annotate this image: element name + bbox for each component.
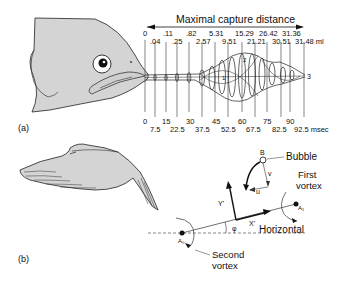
volume-second-row: .04 .25 2.57 9.51 21.21 30.51 31.48 ml [150, 37, 324, 46]
svg-text:30.51: 30.51 [272, 37, 291, 46]
svg-text:30: 30 [186, 117, 194, 126]
svg-text:.82: .82 [186, 29, 196, 38]
svg-text:22.5: 22.5 [170, 125, 185, 134]
bubble-label: Bubble [286, 151, 318, 162]
first-vortex-label-line2: vortex [296, 180, 322, 191]
first-vortex [281, 192, 298, 223]
marker-2: 2 [243, 57, 247, 63]
velocity-v-label: v [268, 170, 272, 177]
fish-head-illustration [30, 18, 148, 112]
svg-text:82.5: 82.5 [272, 125, 287, 134]
bubble-point-label: B [260, 149, 265, 156]
svg-text:45: 45 [212, 117, 220, 126]
second-vortex-label-line1: Second [212, 249, 244, 260]
time-bottom-row: 7.5 22.5 37.5 52.5 67.5 82.5 92.5 msec [150, 125, 329, 134]
bubble-diagram [243, 157, 284, 192]
svg-text:75: 75 [263, 117, 271, 126]
svg-text:92.5 msec: 92.5 msec [294, 125, 329, 134]
svg-text:0: 0 [143, 117, 147, 126]
axis-title: Maximal capture distance [176, 13, 295, 25]
figure-canvas: 1 2 3 Maximal capture distance 0 .11 .82… [0, 0, 343, 285]
first-vortex-label-line1: First [298, 169, 317, 180]
svg-text:67.5: 67.5 [246, 125, 261, 134]
svg-text:7.5: 7.5 [150, 125, 160, 134]
svg-text:21.21: 21.21 [247, 37, 266, 46]
svg-text:0: 0 [143, 29, 147, 38]
svg-text:9.51: 9.51 [222, 37, 237, 46]
bubble-icon [260, 157, 266, 163]
svg-text:52.5: 52.5 [221, 125, 236, 134]
axis-y-label: Y' [218, 200, 224, 207]
marker-3: 3 [307, 73, 311, 80]
svg-text:31.48 ml: 31.48 ml [295, 37, 324, 46]
panel-b-label: (b) [18, 254, 29, 264]
svg-text:.25: .25 [172, 37, 182, 46]
svg-text:37.5: 37.5 [195, 125, 210, 134]
svg-text:2.57: 2.57 [196, 37, 211, 46]
second-vortex-label-line2: vortex [212, 260, 238, 271]
point-a1-label: A₁ [298, 205, 304, 211]
second-vortex [176, 218, 210, 255]
bird-illustration [20, 144, 158, 210]
horizontal-label: Horizontal [259, 224, 304, 235]
svg-text:.04: .04 [150, 37, 160, 46]
velocity-u-label: u [256, 188, 260, 195]
axis-x-label: X' [249, 220, 255, 227]
angle-phi-label: φ [232, 225, 237, 233]
panel-a-label: (a) [18, 123, 29, 133]
point-a0-label: A₀ [178, 238, 185, 244]
